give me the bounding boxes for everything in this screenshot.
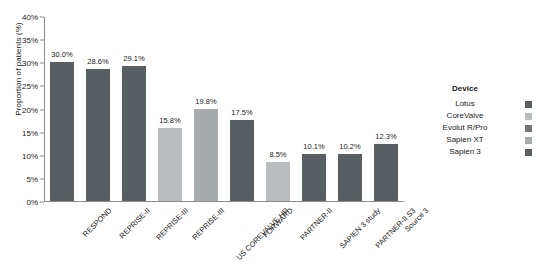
bar-value-label: 29.1% (116, 54, 152, 63)
bar-value-label: 15.8% (152, 116, 188, 125)
bar-value-label: 12.3% (368, 132, 404, 141)
bar[interactable] (338, 154, 362, 201)
legend-items: LotusCoreValveEvolut R/ProSapien XTSapie… (420, 99, 545, 159)
y-axis-tick-label: 0% (4, 198, 38, 207)
bar-value-label: 17.5% (224, 108, 260, 117)
legend-item-label: Sapien XT (420, 135, 510, 144)
legend-color-swatch (525, 125, 532, 132)
x-axis-tick-label: RESPOND (81, 206, 114, 239)
bar[interactable] (194, 109, 218, 201)
bar-group: 10.2% (332, 16, 368, 201)
legend-item[interactable]: Lotus (420, 99, 545, 111)
bar-group: 15.8% (152, 16, 188, 201)
legend-title: Device (420, 84, 510, 93)
x-axis-tick-label: REPRISE-III (154, 206, 190, 242)
y-axis-tick-label: 40% (4, 13, 38, 22)
bar-group: 12.3% (368, 16, 404, 201)
x-axis-tick-label: REPRISE-II (118, 206, 152, 240)
legend-item[interactable]: Sapien 3 (420, 147, 545, 159)
legend-item-label: CoreValve (420, 111, 510, 120)
y-axis-tick-label: 20% (4, 105, 38, 114)
x-axis-line (44, 201, 404, 202)
x-axis-tick-label: REPRISE-III (190, 206, 226, 242)
bar[interactable] (266, 162, 290, 201)
legend-color-swatch (525, 137, 532, 144)
y-axis-tick-label: 30% (4, 59, 38, 68)
y-axis-tick-label: 10% (4, 151, 38, 160)
bar-group: 19.8% (188, 16, 224, 201)
bar-group: 29.1% (116, 16, 152, 201)
bar[interactable] (50, 62, 74, 201)
plot-area: 30.0%28.6%29.1%15.8%19.8%17.5%8.5%10.1%1… (44, 17, 404, 202)
y-axis-tick-label: 5% (4, 174, 38, 183)
bar-value-label: 19.8% (188, 97, 224, 106)
y-axis-tick-label: 15% (4, 128, 38, 137)
legend-item-label: Evolut R/Pro (420, 123, 510, 132)
legend-item-label: Sapien 3 (420, 147, 510, 156)
legend-color-swatch (525, 101, 532, 108)
legend-item[interactable]: Sapien XT (420, 135, 545, 147)
bar-chart: Proportion of patients (%) 40%35%30%25%2… (0, 0, 552, 279)
bar[interactable] (86, 69, 110, 201)
bar-group: 10.1% (296, 16, 332, 201)
bar-value-label: 28.6% (80, 57, 116, 66)
bar-value-label: 8.5% (260, 150, 296, 159)
bar[interactable] (230, 120, 254, 201)
legend-item[interactable]: Evolut R/Pro (420, 123, 545, 135)
legend-item-label: Lotus (420, 99, 510, 108)
x-axis-tick-label: PARTNER-II (298, 206, 334, 242)
bar[interactable] (158, 128, 182, 201)
bar-value-label: 10.2% (332, 142, 368, 151)
bar-group: 30.0% (44, 16, 80, 201)
legend-item[interactable]: CoreValve (420, 111, 545, 123)
bar[interactable] (302, 154, 326, 201)
bar-value-label: 10.1% (296, 142, 332, 151)
bar-group: 8.5% (260, 16, 296, 201)
bar-value-label: 30.0% (44, 50, 80, 59)
legend-color-swatch (525, 149, 532, 156)
legend-color-swatch (525, 113, 532, 120)
y-axis-tick-label: 35% (4, 36, 38, 45)
y-axis-tick-label: 25% (4, 82, 38, 91)
bar-group: 17.5% (224, 16, 260, 201)
bar[interactable] (122, 66, 146, 201)
bar[interactable] (374, 144, 398, 201)
bar-group: 28.6% (80, 16, 116, 201)
y-axis: 40%35%30%25%20%15%10%5%0% (0, 0, 46, 279)
legend: Device LotusCoreValveEvolut R/ProSapien … (420, 84, 545, 159)
